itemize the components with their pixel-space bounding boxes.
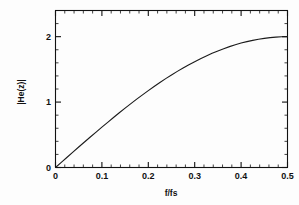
x-tick-label: 0.4 bbox=[235, 171, 248, 181]
y-axis-title: |He(z)| bbox=[16, 79, 26, 105]
x-tick-label: 0.3 bbox=[188, 171, 201, 181]
x-tick-label: 0.2 bbox=[142, 171, 155, 181]
y-tick-label: 2 bbox=[46, 32, 51, 42]
y-axis-ticks bbox=[56, 11, 288, 168]
magnitude-response-chart: 00.10.20.30.40.5 012 f/fs |He(z)| bbox=[0, 0, 299, 205]
x-tick-label: 0 bbox=[53, 171, 58, 181]
plot-frame bbox=[56, 11, 288, 168]
x-axis-title: f/fs bbox=[165, 188, 178, 198]
y-tick-label: 1 bbox=[46, 97, 51, 107]
x-tick-label: 0.1 bbox=[96, 171, 109, 181]
x-tick-label: 0.5 bbox=[281, 171, 294, 181]
magnitude-curve bbox=[56, 37, 288, 168]
y-tick-label: 0 bbox=[46, 163, 51, 173]
x-axis-ticks bbox=[56, 11, 288, 168]
figure-canvas: 00.10.20.30.40.5 012 f/fs |He(z)| bbox=[0, 0, 299, 205]
data-series-group bbox=[56, 37, 288, 168]
y-axis-tick-labels: 012 bbox=[46, 32, 51, 173]
x-axis-tick-labels: 00.10.20.30.40.5 bbox=[53, 171, 294, 181]
